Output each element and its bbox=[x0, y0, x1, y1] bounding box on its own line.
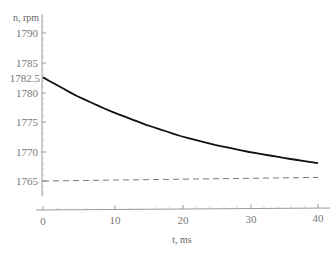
y-tick-label: 1770 bbox=[16, 146, 39, 158]
x-tick-label: 30 bbox=[246, 213, 258, 225]
x-tick-label: 10 bbox=[110, 214, 122, 226]
speed-curve bbox=[43, 77, 318, 163]
chart: n, rpm 1790 1785 1782.5 1780 1775 1770 1… bbox=[0, 0, 335, 253]
y-tick-label: 1775 bbox=[16, 116, 39, 128]
y-axis-title: n, rpm bbox=[13, 12, 39, 23]
y-tick-label: 1765 bbox=[16, 175, 39, 187]
x-tick-label: 0 bbox=[40, 215, 46, 227]
y-tick-label: 1790 bbox=[16, 27, 39, 39]
x-tick-label: 20 bbox=[178, 214, 190, 226]
y-tick-label: 1785 bbox=[16, 57, 39, 69]
x-axis-title: t, ms bbox=[172, 234, 192, 245]
y-ticks bbox=[42, 33, 46, 181]
x-tick-label: 40 bbox=[313, 212, 325, 224]
y-tick-label: 1780 bbox=[16, 87, 39, 99]
reference-dashed-line bbox=[43, 177, 318, 181]
y-tick-label: 1782.5 bbox=[10, 72, 41, 84]
